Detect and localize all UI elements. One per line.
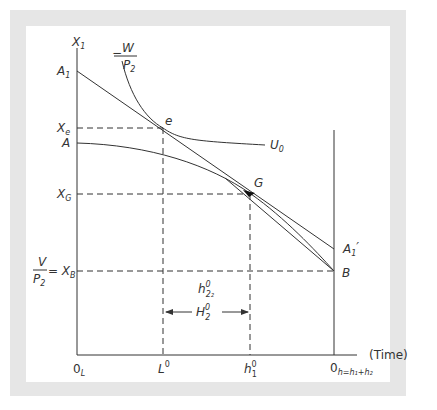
- a-label: A: [61, 136, 70, 150]
- wage-numerator: W: [122, 41, 135, 55]
- a1-label: A1: [56, 64, 70, 80]
- y-axis-label: X1: [71, 35, 85, 51]
- e-label: e: [165, 114, 172, 128]
- l0-label: L0: [158, 360, 170, 376]
- h2-capital-label: H02: [196, 303, 210, 322]
- h22-label: h02₂: [198, 280, 215, 299]
- tangent-line-g: [225, 178, 334, 271]
- origin-right-label: 0h=h₁+h₂: [330, 361, 373, 377]
- h1-label: h01: [244, 360, 257, 379]
- g-label: G: [254, 176, 263, 190]
- xg-label: XG: [56, 187, 71, 203]
- wage-minus: −: [112, 46, 122, 60]
- v-denominator: P2: [33, 272, 45, 288]
- v-numerator: V: [38, 255, 47, 269]
- budget-line-a1: [77, 71, 334, 249]
- u0-label: U0: [270, 138, 284, 154]
- a1-prime-label: A1′: [342, 240, 359, 258]
- production-curve-a: [77, 143, 334, 271]
- origin-left-label: 0L: [73, 362, 85, 378]
- b-label: B: [342, 266, 350, 280]
- indifference-curve-u0: [163, 128, 265, 145]
- xe-label: Xe: [56, 121, 70, 137]
- xb-label: = XB: [48, 264, 76, 280]
- wage-denominator: P2: [123, 58, 135, 74]
- x-axis-label: (Time): [369, 348, 408, 362]
- labor-leisure-diagram: X1 − W P2 A1 Xe A XG V P2 = XB e U0 G A1…: [0, 0, 437, 410]
